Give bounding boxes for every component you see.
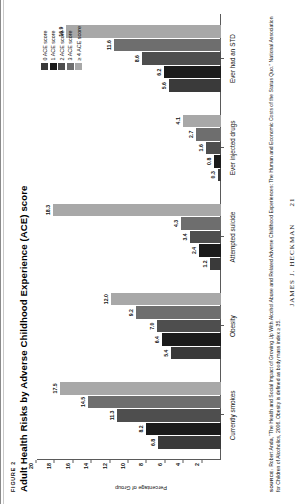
bar-value-label: 6.2 (156, 68, 162, 75)
legend-swatch (41, 63, 48, 70)
top-rule (0, 0, 1, 504)
legend-swatch (58, 63, 65, 70)
bar-value-label: 17.5 (52, 383, 58, 393)
y-tick-mark (146, 460, 147, 463)
y-axis-label: Percentage of Group (66, 485, 216, 491)
bar-value-label: 11.3 (109, 411, 115, 421)
bar-value-label: 14.5 (80, 397, 86, 407)
legend-label: 0 ACE score (42, 30, 48, 60)
bar: 9.2 (136, 306, 221, 319)
y-tick-label: 2 (194, 460, 200, 466)
bar-value-label: 2.4 (191, 247, 197, 254)
bar-groups: 6.88.211.314.517.5Currently smokes5.46.4… (37, 14, 221, 460)
y-tick-mark (164, 460, 165, 463)
legend-swatch (75, 63, 82, 70)
bar-group: 1.22.43.44.318.3Attempted suicide (37, 192, 221, 281)
bar-value-label: 9.2 (128, 309, 134, 316)
bar: 14.5 (88, 396, 221, 409)
bar: 8.6 (142, 52, 221, 65)
page-number: 21 (288, 197, 296, 206)
y-tick-mark (36, 460, 37, 463)
bar: 8.2 (146, 423, 221, 436)
y-tick-label: 10 (120, 460, 126, 469)
bar: 1.2 (210, 258, 221, 271)
legend-swatch (50, 63, 57, 70)
legend-item: 0 ACE score (41, 26, 48, 70)
figure-panel: FIGURE 2 Adult Health Risks by Adverse C… (0, 0, 298, 504)
book-page: FIGURE 2 Adult Health Risks by Adverse C… (0, 0, 298, 504)
bar: 17.5 (60, 382, 221, 395)
bar: 5.6 (169, 79, 221, 92)
bar: 6.4 (162, 333, 221, 346)
bar-group: 5.46.47.09.212.0Obesity (37, 282, 221, 371)
legend-item: 2 ACE score (58, 26, 65, 70)
chart-legend: 0 ACE score1 ACE score2 ACE score3 ACE s… (41, 26, 82, 70)
figure-label: FIGURE 2 (10, 12, 16, 492)
bar: 12.0 (111, 293, 221, 306)
legend-item: ≥ 4 ACE score (75, 26, 82, 70)
bar-value-label: 11.6 (106, 40, 112, 50)
bar: 6.8 (158, 436, 221, 449)
bar-value-label: 6.8 (150, 439, 156, 446)
y-tick-label: 4 (175, 460, 181, 466)
source-note: SOURCE: Robert Anda, "The Health and Soc… (268, 12, 282, 492)
y-tick-mark (91, 460, 92, 463)
legend-item: 1 ACE score (50, 26, 57, 70)
bar: 4.1 (183, 115, 221, 128)
y-tick-mark (72, 460, 73, 463)
y-tick-mark (183, 460, 184, 463)
legend-swatch (67, 63, 74, 70)
bar-value-label: 1.6 (198, 144, 204, 151)
y-tick-label: 20 (28, 460, 34, 469)
y-tick-mark (128, 460, 129, 463)
x-category-label: Ever injected drugs (221, 103, 236, 192)
source-text: Robert Anda, "The Health and Social Impa… (268, 17, 281, 493)
figure-title: Adult Health Risks by Adverse Childhood … (18, 12, 29, 492)
x-category-label: Obesity (221, 282, 236, 371)
bar-value-label: 6.4 (154, 336, 160, 343)
bar: 6.2 (164, 66, 221, 79)
bar: 11.6 (114, 39, 221, 52)
legend-label: 1 ACE score (50, 30, 56, 60)
bar: 0.8 (214, 155, 221, 168)
bar: 2.7 (196, 128, 221, 141)
legend-label: 2 ACE score (59, 30, 65, 60)
x-category-label: Currently smokes (221, 371, 236, 460)
top-rule-secondary (3, 0, 4, 504)
x-category-label: Ever had an STD (221, 14, 236, 103)
y-tick-label: 16 (65, 460, 71, 469)
bar-value-label: 2.7 (188, 131, 194, 138)
legend-label: 3 ACE score (67, 30, 73, 60)
y-tick-label: 18 (46, 460, 52, 469)
y-tick-mark (201, 460, 202, 463)
bar: 2.4 (199, 244, 221, 257)
bar-value-label: 12.0 (103, 294, 109, 304)
bar-value-label: 0.8 (206, 158, 212, 165)
bar-value-label: 0.3 (210, 171, 216, 178)
bar-value-label: 8.2 (138, 425, 144, 432)
bar-value-label: 1.2 (202, 260, 208, 267)
bar: 7.0 (157, 320, 221, 333)
bar-value-label: 7.0 (149, 323, 155, 330)
bar: 11.3 (117, 409, 221, 422)
bar-value-label: 4.1 (175, 117, 181, 124)
y-tick-mark (109, 460, 110, 463)
bar: 16.9 (66, 25, 221, 38)
bar: 18.3 (53, 204, 221, 217)
chart-area: Percentage of Group 6.88.211.314.517.5Cu… (35, 10, 247, 490)
bar: 1.6 (206, 142, 221, 155)
running-head: JAMES J. HECKMAN (288, 223, 296, 306)
plot-region: 6.88.211.314.517.5Currently smokes5.46.4… (37, 14, 221, 460)
legend-item: 3 ACE score (67, 26, 74, 70)
bar-group: 0.30.81.62.74.1Ever injected drugs (37, 103, 221, 192)
y-tick-mark (54, 460, 55, 463)
y-tick-label: 12 (102, 460, 108, 469)
bar: 4.3 (181, 217, 221, 230)
bar-group: 6.88.211.314.517.5Currently smokes (37, 371, 221, 460)
bar-value-label: 5.6 (161, 82, 167, 89)
source-tag: SOURCE: (269, 468, 274, 492)
x-category-label: Attempted suicide (221, 192, 236, 281)
bar-value-label: 18.3 (45, 205, 51, 215)
y-tick-label: 14 (83, 460, 89, 469)
y-tick-label: 6 (157, 460, 163, 466)
